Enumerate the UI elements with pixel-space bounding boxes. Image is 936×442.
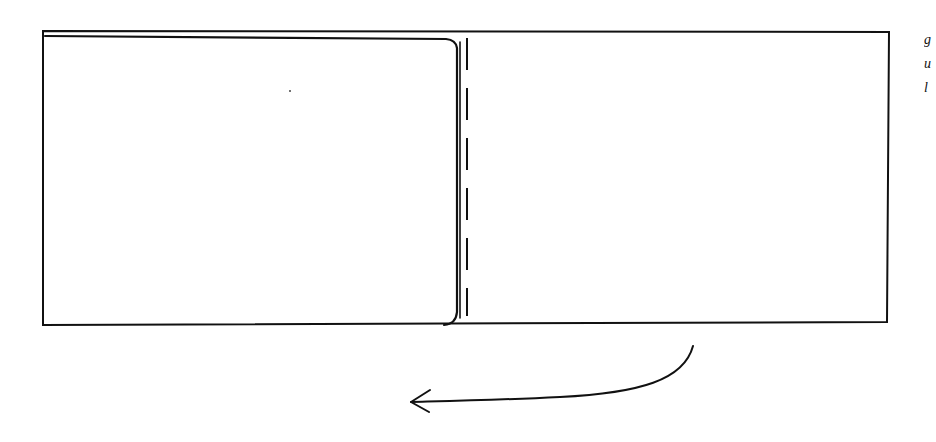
edge-text-line: g: [924, 28, 936, 52]
left-panel: [45, 36, 460, 325]
outer-sheet: [43, 31, 889, 325]
cut-off-margin-text: g u l: [924, 28, 936, 100]
edge-text-line: u: [924, 52, 936, 76]
fold-arrow-icon: [411, 346, 693, 412]
edge-text-line: l: [924, 76, 936, 100]
speck: [289, 90, 291, 92]
